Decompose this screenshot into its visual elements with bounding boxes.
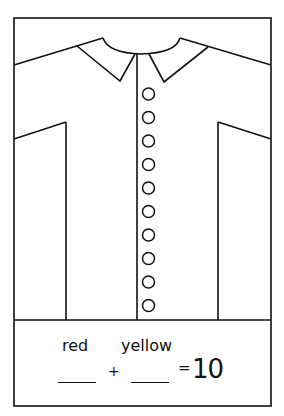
button-circle-1: [143, 88, 155, 100]
button-circle-4: [143, 159, 155, 171]
right-sleeve-cuff: [218, 122, 271, 139]
neckline: [103, 38, 180, 54]
plus-sign: +: [108, 364, 120, 378]
left-collar: [77, 46, 135, 81]
red-label: red: [62, 338, 88, 354]
left-sleeve-cuff: [14, 122, 66, 139]
right-shoulder: [180, 38, 271, 65]
left-shoulder: [14, 38, 103, 65]
shirt-buttons: [143, 88, 155, 312]
button-circle-9: [143, 276, 155, 288]
yellow-answer-blank[interactable]: [131, 382, 169, 383]
red-answer-blank[interactable]: [58, 382, 96, 383]
button-circle-10: [143, 300, 155, 312]
equals-sign: =: [178, 361, 191, 376]
yellow-label: yellow: [121, 338, 172, 354]
button-circle-6: [143, 206, 155, 218]
button-circle-3: [143, 135, 155, 147]
total-value: 10: [192, 356, 223, 382]
button-circle-5: [143, 182, 155, 194]
button-circle-7: [143, 229, 155, 241]
button-circle-8: [143, 253, 155, 265]
button-circle-2: [143, 112, 155, 124]
